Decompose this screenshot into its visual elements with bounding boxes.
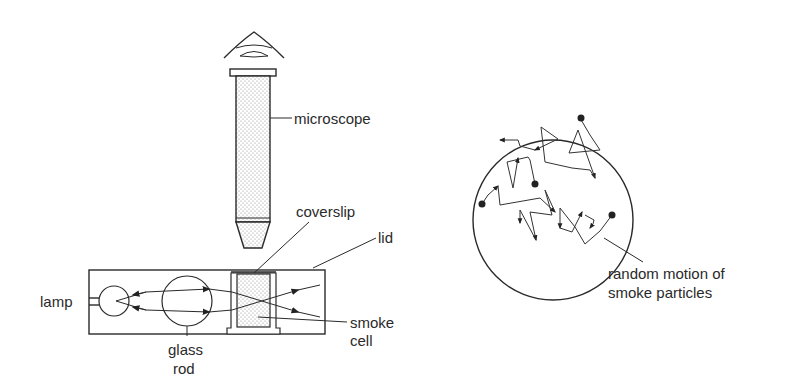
eye-icon — [224, 32, 284, 58]
microscope — [230, 69, 292, 248]
random-motion-label-1: random motion of — [608, 265, 726, 282]
lamp-circle — [99, 286, 129, 316]
smoke-cell-label-2: cell — [350, 332, 373, 349]
light-rays — [116, 285, 320, 317]
glass-rod-label-1: glass — [168, 341, 203, 358]
glass-rod-circle — [162, 276, 212, 326]
lid-label: lid — [378, 229, 393, 246]
lamp-label: lamp — [40, 293, 73, 310]
random-motion-label-2: smoke particles — [608, 284, 712, 301]
glass-rod-label-2: rod — [173, 360, 195, 377]
coverslip-label: coverslip — [296, 203, 355, 220]
microscope-label: microscope — [294, 110, 371, 127]
smoke-cell-label-1: smoke — [350, 314, 394, 331]
diagram-canvas: microscope coverslip lid lamp glass rod … — [0, 0, 785, 387]
